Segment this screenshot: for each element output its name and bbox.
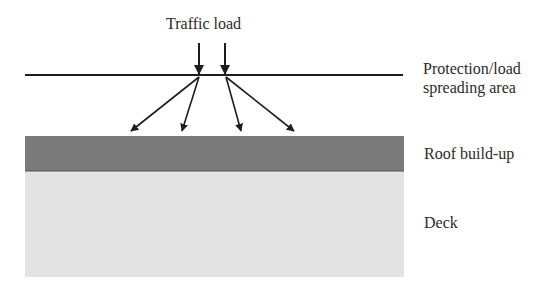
spread-arrow-2 xyxy=(182,77,199,131)
roof-buildup-label: Roof build-up xyxy=(424,144,514,163)
protection-label-line1: Protection/load xyxy=(423,59,521,78)
spread-arrow-4 xyxy=(226,77,294,131)
load-spreading-diagram xyxy=(0,0,556,286)
deck-label: Deck xyxy=(424,213,458,232)
protection-label-line2: spreading area xyxy=(423,78,516,97)
roof-buildup-layer xyxy=(25,136,404,171)
traffic-load-label: Traffic load xyxy=(166,14,241,33)
spread-arrow-1 xyxy=(131,77,199,131)
deck-layer xyxy=(25,171,404,277)
spread-arrow-3 xyxy=(226,77,241,131)
